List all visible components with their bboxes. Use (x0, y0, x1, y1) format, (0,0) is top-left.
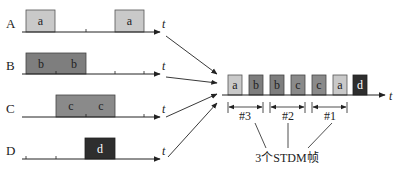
block-c-2-label: c (98, 99, 103, 113)
output-line: a b b c c a d t (222, 75, 393, 103)
t-label-a: t (162, 17, 166, 31)
arrow-a (166, 36, 217, 74)
input-row-a: A a a t (6, 10, 166, 32)
block-a-1-label: a (38, 14, 44, 28)
frame-brackets: #3 #2 #1 (228, 102, 347, 123)
block-b-1-label: b (38, 57, 44, 71)
block-b-2-label: b (71, 57, 77, 71)
block-c-1-label: c (68, 99, 73, 113)
slot-3-label: b (274, 78, 280, 92)
block-b (26, 53, 86, 74)
block-d-label: d (97, 142, 103, 156)
input-row-b: B b b t (6, 53, 166, 74)
row-label-a: A (6, 16, 16, 31)
arrow-b (166, 77, 217, 83)
input-row-d: D d t (6, 138, 166, 159)
arrow-d (168, 103, 217, 157)
row-label-c: C (6, 101, 15, 116)
t-label-c: t (162, 102, 166, 116)
input-row-c: C c c t (6, 95, 166, 117)
t-label-d: t (162, 144, 166, 158)
row-label-d: D (6, 143, 15, 158)
slot-4-label: c (295, 78, 300, 92)
frame-1-label: #1 (324, 109, 336, 123)
t-label-b: t (162, 59, 166, 73)
mux-arrows (166, 36, 217, 157)
slot-5-label: c (316, 78, 321, 92)
block-a-2-label: a (127, 14, 133, 28)
output-t-label: t (389, 89, 393, 103)
arrow-c (166, 94, 217, 117)
caption-group: 3个STDM帧 (255, 123, 332, 165)
leader-line-3 (255, 123, 266, 148)
leader-line-1 (308, 123, 332, 148)
slot-2-label: b (253, 78, 259, 92)
frame-2-label: #2 (282, 109, 294, 123)
slot-7-label: d (357, 78, 363, 92)
row-label-b: B (6, 58, 15, 73)
slot-6-label: a (337, 78, 343, 92)
caption: 3个STDM帧 (255, 151, 318, 165)
block-c (56, 95, 115, 117)
frame-3-label: #3 (239, 109, 251, 123)
slot-1-label: a (232, 78, 238, 92)
stdm-diagram: A a a t B b b t C c c t D d t (0, 0, 399, 174)
